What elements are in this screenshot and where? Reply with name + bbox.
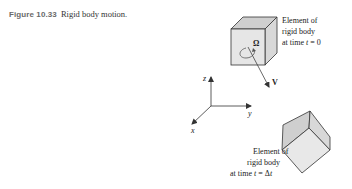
svg-text:rigid body: rigid body xyxy=(282,27,315,36)
x-axis-label: x xyxy=(190,126,195,135)
x-axis xyxy=(192,106,211,124)
svg-text:Element of: Element of xyxy=(282,16,318,25)
svg-text:at time t = 0: at time t = 0 xyxy=(282,38,321,47)
svg-text:at time t = Δt: at time t = Δt xyxy=(230,169,273,178)
velocity-symbol: V xyxy=(272,78,278,87)
label-initial: Element of rigid body at time t = 0 xyxy=(282,16,321,47)
rigid-body-diagram: Ω V Element of rigid body at time t = 0 … xyxy=(0,0,352,189)
z-axis-label: z xyxy=(202,74,207,83)
coordinate-axes: z y x xyxy=(190,74,252,135)
y-axis-label: y xyxy=(247,109,252,118)
svg-text:rigid body: rigid body xyxy=(247,158,280,167)
omega-symbol: Ω xyxy=(253,39,260,48)
svg-text:Element of: Element of xyxy=(253,147,289,156)
label-final: Element of rigid body at time t = Δt xyxy=(230,147,289,178)
cube-final xyxy=(282,111,330,173)
